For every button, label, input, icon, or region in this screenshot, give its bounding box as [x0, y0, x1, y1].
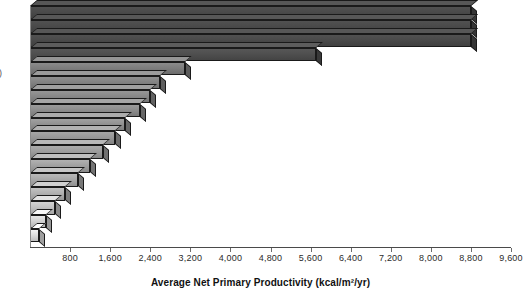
- x-axis-tick-label: 4,800: [259, 253, 283, 263]
- plot-area: [0, 0, 521, 248]
- bar-side-face: [65, 187, 71, 205]
- bar-side-face: [125, 118, 131, 136]
- x-axis-tick-label: 7,200: [379, 253, 403, 263]
- bar-side-face: [316, 48, 322, 66]
- x-axis-tick: [511, 248, 512, 252]
- bar-side-face: [150, 90, 156, 108]
- bar-side-face: [103, 145, 109, 163]
- bar-side-face: [160, 76, 166, 94]
- x-axis-tick: [150, 248, 151, 252]
- bar-side-face: [115, 131, 121, 149]
- bar-side-face: [46, 215, 52, 233]
- x-axis-tick: [471, 248, 472, 252]
- bar-side-face: [185, 62, 191, 80]
- bar-side-face: [39, 229, 45, 247]
- x-axis-tick-label: 8,800: [459, 253, 483, 263]
- x-axis-tick: [391, 248, 392, 252]
- x-axis-tick-label: 9,600: [499, 253, 523, 263]
- bar-side-face: [55, 201, 61, 219]
- x-axis-tick-label: 1,600: [98, 253, 122, 263]
- y-axis-line: [30, 6, 31, 248]
- x-axis-tick: [311, 248, 312, 252]
- x-axis-tick: [190, 248, 191, 252]
- y-axis-cropped-label: ): [0, 68, 2, 78]
- bar: [30, 229, 45, 242]
- x-axis-tick-label: 3,200: [179, 253, 203, 263]
- x-axis-tick-label: 4,000: [219, 253, 243, 263]
- bar-side-face: [471, 34, 477, 52]
- x-axis-tick-label: 8,000: [419, 253, 443, 263]
- bar-side-face: [140, 104, 146, 122]
- x-axis-tick-label: 800: [62, 253, 78, 263]
- x-axis-tick: [271, 248, 272, 252]
- x-axis-tick: [110, 248, 111, 252]
- bar-side-face: [90, 159, 96, 177]
- x-axis-tick: [431, 248, 432, 252]
- bar-side-face: [78, 173, 84, 191]
- bar-front-face: [30, 229, 39, 242]
- x-axis-tick-label: 2,400: [138, 253, 162, 263]
- x-axis-tick: [230, 248, 231, 252]
- x-axis-tick: [351, 248, 352, 252]
- x-axis-tick: [70, 248, 71, 252]
- x-axis-tick-label: 6,400: [339, 253, 363, 263]
- x-axis-title: Average Net Primary Productivity (kcal/m…: [0, 277, 521, 288]
- x-axis-tick-label: 5,600: [299, 253, 323, 263]
